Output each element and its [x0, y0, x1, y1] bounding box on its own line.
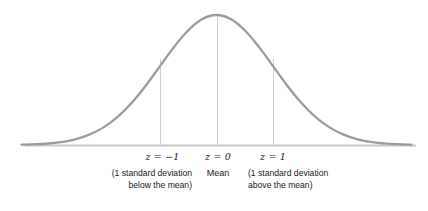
caption-line-2: below the mean) [72, 180, 192, 192]
caption-line-1: (1 standard deviation [248, 168, 378, 180]
caption-plus-1-sd: (1 standard deviation above the mean) [248, 168, 378, 191]
caption-mean: Mean [178, 168, 258, 178]
label-layer: z = −1 (1 standard deviation below the m… [0, 0, 428, 211]
caption-minus-1-sd: (1 standard deviation below the mean) [72, 168, 192, 191]
caption-line-2: above the mean) [248, 180, 378, 192]
caption-line-1: (1 standard deviation [72, 168, 192, 180]
normal-distribution-figure: z = −1 (1 standard deviation below the m… [0, 0, 428, 211]
z-label-plus-1: z = 1 [233, 151, 313, 162]
